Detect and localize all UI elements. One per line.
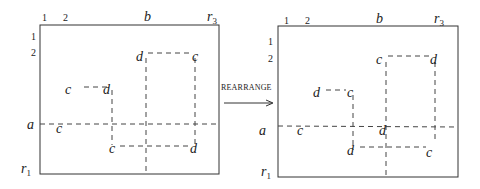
right-point-d-small: d <box>313 86 320 100</box>
left-r1-label: r1 <box>21 162 31 180</box>
left-point-c-big: c <box>192 50 198 64</box>
right-col-label-1: 1 <box>284 16 289 26</box>
left-r3-label: r3 <box>207 10 217 28</box>
left-dashed-lines <box>40 53 219 175</box>
left-point-c-small: c <box>65 83 71 97</box>
left-point-c-left: c <box>56 122 62 136</box>
diagram-lines <box>0 0 480 189</box>
right-col-label-2: 2 <box>305 16 310 26</box>
right-point-d-bottom: d <box>347 144 354 158</box>
left-b-label: b <box>144 10 151 24</box>
left-a-label: a <box>27 118 34 132</box>
left-col-label-2: 2 <box>63 13 68 23</box>
right-point-c-big: c <box>376 53 382 67</box>
left-row-label-1: 1 <box>31 32 36 42</box>
left-point-d-big: d <box>136 50 143 64</box>
right-r1-label: r1 <box>261 165 271 183</box>
right-r3-label: r3 <box>434 12 444 30</box>
right-b-label: b <box>376 12 383 26</box>
right-point-c-small: c <box>347 86 353 100</box>
right-point-d-mid: d <box>379 124 386 138</box>
right-a-label: a <box>259 124 266 138</box>
right-row-label-2: 2 <box>268 54 273 64</box>
left-point-d-small: d <box>103 83 110 97</box>
left-row-label-2: 2 <box>31 48 36 58</box>
left-col-label-1: 1 <box>42 13 47 23</box>
left-point-d-bottom: d <box>190 142 197 156</box>
right-row-label-1: 1 <box>268 37 273 47</box>
right-point-d-big: d <box>430 53 437 67</box>
rearrange-label: REARRANGE <box>221 83 272 92</box>
right-point-c-bottom: c <box>426 146 432 160</box>
right-point-c-left: c <box>297 124 303 138</box>
left-point-c-bottom: c <box>109 142 115 156</box>
